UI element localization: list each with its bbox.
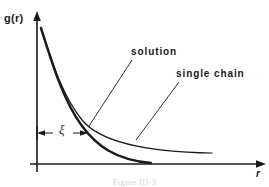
curve-single-chain: [41, 28, 212, 153]
curve-label-solution: solution: [131, 46, 177, 57]
x-axis: [30, 160, 266, 167]
y-axis-label: g(r): [4, 12, 24, 24]
curve-label-single-chain: single chain: [176, 68, 245, 79]
correlation-length-symbol: ξ: [59, 122, 65, 138]
y-axis: [33, 11, 41, 172]
figure-container: g(r) r solution single chain ξ Figure II…: [0, 0, 269, 187]
leader-line-solution: [89, 60, 132, 126]
figure-caption: Figure III-3: [0, 178, 269, 187]
leader-line-single-chain: [136, 82, 179, 140]
plot-canvas: [0, 0, 269, 187]
